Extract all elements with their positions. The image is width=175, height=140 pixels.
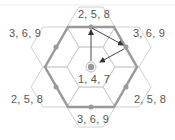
label-lower-right: 2, 5, 8 xyxy=(134,93,166,105)
label-upper-right: 3, 6, 9 xyxy=(133,27,165,39)
label-upper-left: 3, 6, 9 xyxy=(9,27,41,39)
dot-lower-left xyxy=(54,85,59,90)
label-center: 1, 4, 7 xyxy=(78,73,110,85)
dot-lower-right xyxy=(124,85,129,90)
dot-upper-left xyxy=(54,45,59,50)
label-lower-left: 2, 5, 8 xyxy=(11,93,43,105)
label-top: 2, 5, 8 xyxy=(78,8,110,20)
dot-bottom xyxy=(89,105,94,110)
center-dot xyxy=(88,64,94,70)
dot-upper-right xyxy=(124,45,129,50)
label-bottom: 3, 6, 9 xyxy=(77,113,109,125)
arrow-upper-right-to-center xyxy=(100,49,124,62)
arrows xyxy=(91,28,124,62)
